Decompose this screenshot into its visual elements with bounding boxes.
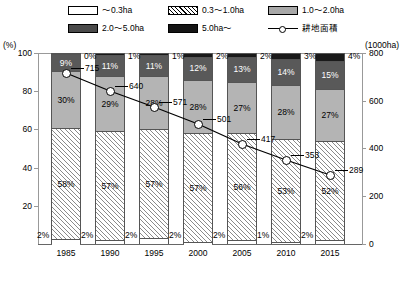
chart-legend: ～0.3ha 0.3～1.0ha 1.0～2.0ha 2.0～5.0ha 5.0… (0, 6, 401, 42)
line-value-label: 640 (129, 81, 143, 91)
bar-seg-label: 12% (189, 64, 206, 73)
y-tick-right (362, 244, 366, 245)
legend-swatch-hatch-icon (168, 6, 198, 15)
bar-seg-label: 58% (57, 180, 74, 189)
x-tick-label: 2000 (177, 248, 219, 258)
legend-item-1: 0.3～1.0ha (168, 6, 244, 15)
table-row[interactable]: 15% 27% 52% (315, 53, 345, 244)
y-tick-left (34, 168, 38, 169)
bar-seg-5.0ha (316, 53, 344, 61)
x-tick-label: 2015 (309, 248, 351, 258)
bar-top-label: 3% (304, 51, 316, 61)
bar-seg-0.3ha (272, 242, 300, 244)
legend-swatch-lgray-icon (268, 6, 298, 15)
table-row[interactable]: 13% 27% 56% (227, 53, 257, 244)
y-tick-left (34, 53, 38, 54)
bar-seg-1.0-2.0ha: 30% (52, 71, 80, 128)
bar-seg-2.0-5.0ha: 11% (140, 55, 168, 76)
bar-top-label: 1% (128, 51, 140, 61)
bar-seg-label: 29% (101, 100, 118, 109)
line-label-leader (247, 139, 260, 140)
bar-seg-label: 28% (189, 103, 206, 112)
plot-area: 100 80 60 40 20 800 600 400 200 0 9% 30%… (38, 53, 363, 244)
bar-seg-0.3-1.0ha: 57% (184, 133, 212, 242)
x-tick-label: 1995 (133, 248, 175, 258)
y-tick-label-left: 80 (23, 86, 32, 96)
legend-label: 1.0～2.0ha (302, 6, 344, 15)
bar-seg-2.0-5.0ha: 11% (96, 55, 124, 76)
bar-seg-label: 15% (321, 71, 338, 80)
table-row[interactable]: 9% 30% 58% (51, 53, 81, 244)
y-tick-label-left: 40 (23, 163, 32, 173)
line-value-label: 571 (173, 97, 187, 107)
bar-bottom-label: 1% (257, 230, 269, 240)
line-label-leader (159, 102, 172, 103)
table-row[interactable]: 14% 28% 53% (271, 53, 301, 244)
legend-label: ～0.3ha (102, 6, 132, 15)
line-marker[interactable] (238, 140, 247, 149)
bar-seg-1.0-2.0ha: 29% (96, 76, 124, 131)
line-marker[interactable] (326, 171, 335, 180)
bar-seg-2.0-5.0ha: 13% (228, 57, 256, 82)
bar-seg-2.0-5.0ha: 12% (184, 57, 212, 80)
y-tick-label-right: 600 (369, 96, 383, 106)
y-tick-right (362, 196, 366, 197)
table-row[interactable]: 11% 29% 57% (95, 53, 125, 244)
y-tick-label-right: 400 (369, 143, 383, 153)
bar-seg-0.3-1.0ha: 57% (96, 131, 124, 240)
bar-seg-label: 28% (277, 108, 294, 117)
y-tick-label-right: 0 (369, 239, 374, 249)
legend-swatch-white-icon (68, 6, 98, 15)
x-tick-label: 2010 (265, 248, 307, 258)
bar-seg-label: 9% (60, 59, 72, 68)
bar-seg-0.3-1.0ha: 58% (52, 128, 80, 239)
line-marker[interactable] (282, 156, 291, 165)
bar-seg-1.0-2.0ha: 27% (228, 82, 256, 134)
chart-root: ～0.3ha 0.3～1.0ha 1.0～2.0ha 2.0～5.0ha 5.0… (0, 0, 401, 283)
bar-seg-label: 11% (146, 62, 162, 71)
x-tick-label: 1990 (89, 248, 131, 258)
y-tick-left (34, 129, 38, 130)
line-value-label: 501 (217, 114, 231, 124)
line-marker[interactable] (106, 87, 115, 96)
line-value-label: 353 (305, 150, 319, 160)
y-tick-label-right: 200 (369, 191, 383, 201)
y-tick-label-left: 60 (23, 124, 32, 134)
bar-bottom-label: 2% (169, 230, 181, 240)
y-tick-label-left: 20 (23, 201, 32, 211)
y-tick-right (362, 53, 366, 54)
bar-seg-label: 13% (233, 65, 250, 74)
legend-swatch-dgray-icon (68, 24, 98, 33)
table-row[interactable]: 12% 28% 57% (183, 53, 213, 244)
y-axis-unit-left: (%) (3, 40, 16, 50)
legend-label: 0.3～1.0ha (202, 6, 244, 15)
bar-seg-label: 57% (189, 184, 206, 193)
table-row[interactable]: 11% 28% 57% (139, 53, 169, 244)
legend-label: 5.0ha～ (202, 24, 232, 33)
line-marker[interactable] (194, 120, 203, 129)
line-marker[interactable] (62, 69, 71, 78)
line-label-leader (203, 119, 216, 120)
y-axis-left-line (38, 53, 39, 244)
bar-seg-label: 56% (233, 183, 250, 192)
bar-seg-label: 57% (145, 180, 162, 189)
bar-seg-0.3ha (96, 240, 124, 244)
line-value-label: 715 (85, 63, 99, 73)
legend-item-0: ～0.3ha (68, 6, 132, 15)
line-label-leader (71, 68, 84, 69)
bar-seg-1.0-2.0ha: 28% (272, 85, 300, 139)
bar-seg-label: 27% (233, 104, 250, 113)
bar-seg-label: 52% (321, 187, 338, 196)
line-marker[interactable] (150, 103, 159, 112)
bar-seg-0.3ha (316, 240, 344, 244)
y-tick-left (34, 206, 38, 207)
bar-seg-label: 57% (101, 182, 118, 191)
bar-top-label: 0% (84, 51, 96, 61)
line-value-label: 289 (349, 165, 363, 175)
legend-item-2: 1.0～2.0ha (268, 6, 344, 15)
y-tick-label-left: 100 (18, 48, 32, 58)
bar-top-label: 4% (348, 51, 360, 61)
legend-swatch-line-icon (268, 24, 298, 33)
x-tick-label: 1985 (45, 248, 87, 258)
bar-bottom-label: 2% (301, 230, 313, 240)
